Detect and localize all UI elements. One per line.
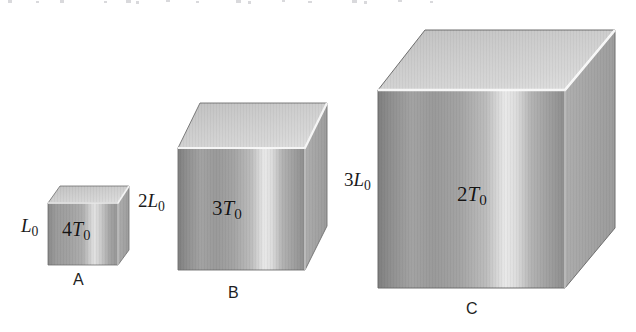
cube-b-edge-label-var: L	[148, 190, 159, 211]
cube-c	[378, 30, 615, 288]
cube-b-face-label-sub: 0	[234, 206, 242, 222]
cube-c-edge-label-var: L	[354, 169, 365, 190]
cube-c-face-label-var: T	[468, 182, 480, 206]
clipped-text-remnants	[0, 0, 636, 8]
cube-figure	[0, 0, 636, 332]
cube-b-face-label: 3T0	[212, 198, 242, 222]
cube-b-edge-label-sub: 0	[158, 199, 165, 214]
cube-a-face-label-prefix: 4	[62, 218, 72, 240]
cube-b-caption: B	[228, 285, 239, 301]
cube-a-edge-label-sub: 0	[32, 224, 39, 239]
cube-a-edge-label-var: L	[21, 215, 32, 236]
cube-a-face-label-sub: 0	[83, 227, 90, 243]
cube-c-edge-label-prefix: 3	[344, 169, 354, 190]
cube-a-face-label-var: T	[72, 218, 83, 240]
cube-b	[178, 103, 327, 270]
cube-a-face-label: 4T0	[62, 219, 90, 242]
cube-b-edge-label-prefix: 2	[138, 190, 148, 211]
cube-c-face-label-prefix: 2	[457, 182, 468, 206]
cube-a-caption: A	[73, 272, 84, 288]
cube-b-face-label-var: T	[223, 196, 235, 220]
cube-b-edge-label: 2L0	[138, 191, 165, 214]
cube-c-caption: C	[466, 301, 478, 317]
cube-a-edge-label: L0	[21, 216, 38, 239]
cube-c-edge-label: 3L0	[344, 170, 371, 193]
cube-c-face-label-sub: 0	[479, 192, 487, 208]
cube-b-face-label-prefix: 3	[212, 196, 223, 220]
cube-c-face-label: 2T0	[457, 184, 487, 208]
cube-c-edge-label-sub: 0	[364, 178, 371, 193]
